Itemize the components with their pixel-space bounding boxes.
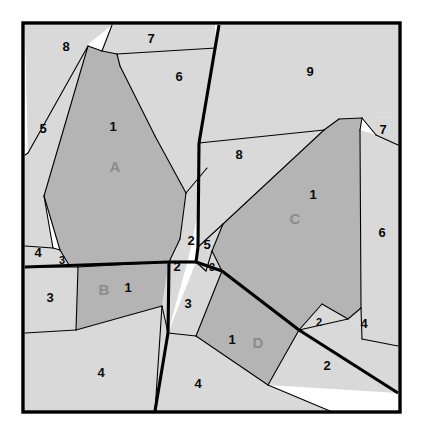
number-label-8: 8 (62, 39, 69, 54)
figure-root: 857643A1223B14978C16533D12424 (0, 0, 422, 436)
number-label-6: 6 (378, 225, 385, 240)
thick-edge-5 (168, 262, 169, 333)
number-label-4: 4 (97, 365, 105, 380)
letter-label-D: D (253, 334, 264, 351)
number-label-1-region-B: 1 (124, 280, 131, 295)
number-label-3: 3 (59, 254, 65, 266)
number-label-3: 3 (184, 296, 191, 311)
number-label-4: 4 (34, 245, 42, 260)
letter-label-A: A (110, 158, 121, 175)
number-label-7: 7 (379, 122, 386, 137)
number-label-5: 5 (203, 237, 210, 252)
number-label-2: 2 (316, 316, 322, 328)
number-label-1-region-C: 1 (309, 187, 316, 202)
number-label-2: 2 (323, 358, 330, 373)
number-label-1-region-A: 1 (109, 119, 116, 134)
number-label-6: 6 (175, 69, 182, 84)
number-label-4: 4 (194, 376, 202, 391)
letter-label-C: C (290, 210, 301, 227)
number-label-2: 2 (187, 233, 194, 248)
thick-edge-2 (196, 247, 198, 262)
letter-label-B: B (99, 281, 110, 298)
number-label-3: 3 (209, 261, 215, 273)
regions-layer (25, 25, 398, 411)
thick-edge-1 (198, 143, 199, 247)
number-label-1-region-D: 1 (228, 332, 235, 347)
number-label-9: 9 (306, 64, 313, 79)
number-label-4: 4 (360, 316, 368, 331)
number-label-5: 5 (39, 121, 46, 136)
partition-diagram: 857643A1223B14978C16533D12424 (0, 0, 422, 436)
number-label-2: 2 (173, 259, 180, 274)
number-label-8: 8 (235, 147, 242, 162)
number-label-3: 3 (46, 290, 53, 305)
number-label-7: 7 (147, 31, 154, 46)
